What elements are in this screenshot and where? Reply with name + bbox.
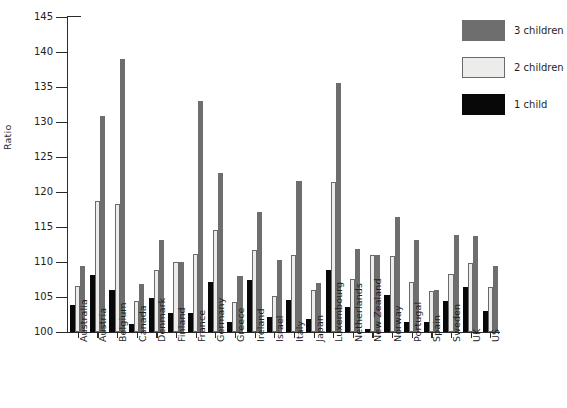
bar-group	[304, 17, 324, 332]
bar-group	[225, 17, 245, 332]
y-axis-tick-label: 135	[34, 82, 53, 92]
x-axis-label-cell: Israel	[264, 340, 284, 406]
bar	[296, 181, 301, 332]
bar-group	[441, 17, 461, 332]
x-axis-tick-label: Austria	[97, 308, 108, 342]
legend-item: 1 child	[462, 94, 564, 115]
legend-item: 3 children	[462, 20, 564, 41]
y-axis-tick-label: 115	[34, 222, 53, 232]
y-axis-label: Ratio	[2, 125, 13, 150]
x-axis-tick-label: Norway	[392, 305, 403, 342]
legend-swatch	[462, 20, 505, 41]
x-axis-tick-label: New Zealand	[372, 278, 383, 342]
y-axis-tick-mark	[56, 297, 68, 298]
y-axis-tick-mark	[56, 17, 68, 18]
y-axis-tick-mark	[56, 52, 68, 53]
y-axis-tick-label: 105	[34, 292, 53, 302]
x-axis-label-cell: New Zealand	[363, 340, 383, 406]
bar-group	[382, 17, 402, 332]
x-axis-label-cell: Canada	[127, 340, 147, 406]
plot-area	[68, 17, 500, 332]
legend-swatch	[462, 57, 505, 78]
x-axis-label-cell: Spain	[422, 340, 442, 406]
y-axis-tick-mark	[56, 157, 68, 158]
x-axis-tick-label: Luxembourg	[333, 282, 344, 342]
x-axis-tick-label: Israel	[274, 315, 285, 342]
bar-group	[166, 17, 186, 332]
bar	[120, 59, 125, 332]
y-axis-tick-mark	[56, 122, 68, 123]
x-axis-label-cell: Norway	[382, 340, 402, 406]
y-axis-tick-mark	[56, 227, 68, 228]
x-axis-label-cell: Portugal	[402, 340, 422, 406]
x-axis-tick-label: Germany	[215, 298, 226, 342]
x-axis-tick-label: Japan	[314, 315, 325, 342]
bar-group	[402, 17, 422, 332]
y-axis-tick-mark	[56, 332, 68, 333]
chart-legend: 3 children2 children1 child	[462, 20, 564, 131]
y-axis-tick-mark	[56, 262, 68, 263]
bar	[473, 236, 478, 332]
x-axis-label-cell: France	[186, 340, 206, 406]
bar	[100, 116, 105, 332]
x-axis-label-cell: US	[480, 340, 500, 406]
bar-group	[245, 17, 265, 332]
x-axis-label-cell: Sweden	[441, 340, 461, 406]
x-axis-label-cell: Japan	[304, 340, 324, 406]
y-axis-tick-label: 130	[34, 117, 53, 127]
x-axis-label-cell: Netherlands	[343, 340, 363, 406]
x-axis-label-cell: Australia	[68, 340, 88, 406]
x-axis-label-cell: Belgium	[107, 340, 127, 406]
y-axis-tick-label: 100	[34, 327, 53, 337]
bar-groups	[68, 17, 500, 332]
x-axis-tick-label: Belgium	[117, 302, 128, 342]
y-axis-tick-label: 145	[34, 12, 53, 22]
y-axis-tick-mark	[56, 192, 68, 193]
x-axis-tick-label: US	[490, 329, 501, 342]
x-axis-label-cell: Greece	[225, 340, 245, 406]
x-axis-tick-label: France	[196, 310, 207, 342]
x-axis-tick-label: Canada	[137, 305, 148, 342]
bar-group	[68, 17, 88, 332]
legend-label: 3 children	[514, 25, 564, 36]
bar-group	[107, 17, 127, 332]
bar	[198, 101, 203, 332]
bar-group	[127, 17, 147, 332]
bar-group	[205, 17, 225, 332]
bar-group	[186, 17, 206, 332]
bar	[493, 266, 498, 333]
x-axis-tick-label: Finland	[176, 307, 187, 342]
y-axis-tick-mark	[56, 87, 68, 88]
y-axis-tick-label: 120	[34, 187, 53, 197]
x-axis-label-cell: Germany	[205, 340, 225, 406]
x-axis-labels: AustraliaAustriaBelgiumCanadaDenmarkFinl…	[68, 340, 500, 406]
y-axis-tick-label: 125	[34, 152, 53, 162]
bar-group	[264, 17, 284, 332]
legend-swatch	[462, 94, 505, 115]
x-axis-tick-label: Greece	[235, 308, 246, 342]
x-axis-tick-label: Portugal	[412, 302, 423, 342]
x-axis-tick-label: Sweden	[451, 304, 462, 342]
x-axis-tick-label: Denmark	[156, 298, 167, 342]
bar-group	[422, 17, 442, 332]
x-axis-label-cell: Austria	[88, 340, 108, 406]
x-axis-tick-label: Italy	[294, 321, 305, 342]
bar-group	[284, 17, 304, 332]
bar-chart: Ratio 100105110115120125130135140145 Aus…	[0, 0, 567, 408]
x-axis-label-cell: Finland	[166, 340, 186, 406]
x-axis-label-cell: Ireland	[245, 340, 265, 406]
bar-group	[88, 17, 108, 332]
x-axis-label-cell: UK	[461, 340, 481, 406]
legend-item: 2 children	[462, 57, 564, 78]
x-axis-tick-label: Ireland	[255, 308, 266, 342]
y-axis-tick-label: 110	[34, 257, 53, 267]
x-axis-label-cell: Luxembourg	[323, 340, 343, 406]
legend-label: 1 child	[514, 99, 547, 110]
x-axis-tick-label: Australia	[78, 299, 89, 342]
x-axis-label-cell: Italy	[284, 340, 304, 406]
x-axis-label-cell: Denmark	[147, 340, 167, 406]
legend-label: 2 children	[514, 62, 564, 73]
x-axis-tick-label: Spain	[431, 315, 442, 342]
y-axis-tick-label: 140	[34, 47, 53, 57]
bar-group	[147, 17, 167, 332]
